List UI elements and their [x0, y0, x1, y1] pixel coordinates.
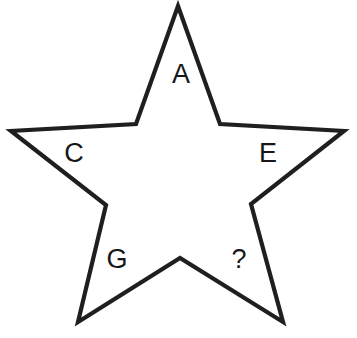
star-label-a: A [172, 59, 190, 89]
figure-background [0, 0, 357, 338]
star-label-g: G [106, 244, 127, 274]
star-label-e: E [259, 138, 277, 168]
star-label-c: C [64, 138, 84, 168]
star-puzzle-figure: A C E G ? [0, 0, 357, 338]
star-label-question-mark: ? [231, 244, 246, 274]
